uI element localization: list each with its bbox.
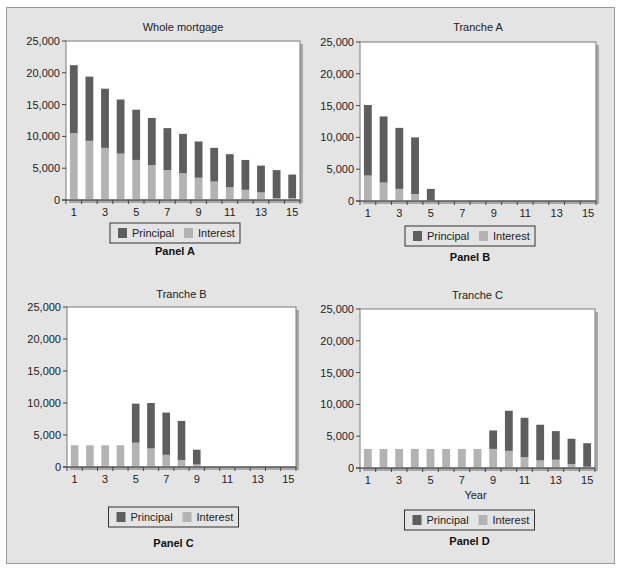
bar-principal (242, 160, 250, 190)
legend-principal-label: Principal (132, 227, 174, 239)
bar-principal (273, 170, 281, 198)
bar-interest (395, 189, 403, 201)
bar-interest (242, 190, 250, 200)
legend-interest-label: Interest (493, 230, 530, 242)
x-tick-label: 11 (224, 206, 235, 218)
x-tick-label: 7 (459, 207, 465, 219)
x-tick-label: 1 (72, 473, 78, 485)
chart-title: Tranche A (453, 21, 503, 33)
chart-panel-b: Tranche A05,00010,00015,00020,00025,0001… (320, 21, 599, 263)
chart-panel-d: Tranche C05,00010,00015,00020,00025,0001… (320, 289, 598, 547)
bar-interest (195, 178, 203, 200)
bar-interest (411, 194, 419, 201)
x-tick-label: 9 (491, 207, 497, 219)
x-tick-label: 15 (282, 473, 294, 485)
x-tick-label: 3 (102, 473, 108, 485)
x-tick-label: 15 (581, 474, 593, 486)
x-tick-label: 13 (550, 474, 562, 486)
panel-label: Panel C (153, 537, 193, 549)
y-tick-label: 15,000 (320, 367, 354, 379)
x-tick-label: 15 (582, 207, 594, 219)
bar-interest (568, 464, 576, 468)
y-tick-label: 20,000 (27, 333, 61, 345)
bar-interest (536, 460, 544, 468)
x-tick-label: 3 (102, 206, 108, 218)
y-tick-label: 20,000 (26, 67, 60, 79)
bar-interest (257, 192, 265, 200)
bar-interest (71, 445, 79, 467)
x-tick-label: 1 (365, 207, 371, 219)
x-tick-label: 3 (396, 207, 402, 219)
x-tick-label: 1 (365, 474, 371, 486)
bar-principal (195, 141, 203, 177)
legend-interest-swatch (479, 515, 488, 525)
chart-title: Tranche B (156, 288, 206, 300)
x-tick-label: 11 (222, 473, 233, 485)
y-tick-label: 20,000 (320, 68, 354, 80)
legend-interest-label: Interest (197, 511, 234, 523)
legend-principal-swatch (413, 515, 422, 525)
chart-panel-a: Whole mortgage05,00010,00015,00020,00025… (26, 21, 303, 257)
y-tick-label: 25,000 (320, 36, 354, 48)
bar-principal (164, 128, 172, 170)
y-tick-label: 0 (348, 462, 354, 474)
legend-interest-label: Interest (198, 227, 235, 239)
bar-principal (521, 418, 529, 457)
x-tick-label: 5 (133, 206, 139, 218)
bar-interest (489, 449, 497, 468)
x-tick-label: 7 (164, 206, 170, 218)
bar-principal (70, 65, 78, 133)
legend-principal-swatch (413, 231, 422, 241)
x-axis-label: Year (464, 489, 487, 501)
bar-principal (132, 404, 140, 443)
bar-interest (162, 455, 170, 467)
x-tick-label: 1 (71, 206, 77, 218)
y-tick-label: 25,000 (26, 35, 60, 47)
y-tick-label: 25,000 (27, 301, 61, 313)
x-tick-label: 13 (252, 473, 264, 485)
bar-interest (101, 445, 109, 467)
bar-principal (411, 137, 419, 194)
legend-interest-swatch (184, 228, 193, 238)
y-tick-label: 5,000 (326, 430, 354, 442)
y-tick-label: 5,000 (33, 429, 61, 441)
chart-title: Whole mortgage (143, 21, 224, 33)
bar-interest (226, 187, 234, 200)
panel-label: Panel B (450, 251, 490, 263)
bar-interest (210, 182, 218, 200)
bar-principal (147, 403, 155, 448)
chart-legend: PrincipalInterest (110, 223, 240, 243)
bar-interest (164, 170, 172, 200)
legend-principal-swatch (118, 228, 127, 238)
legend-principal-label: Principal (427, 514, 469, 526)
x-tick-label: 11 (519, 474, 530, 486)
bar-interest (458, 449, 466, 468)
bar-principal (505, 411, 513, 451)
bar-principal (132, 110, 140, 160)
bar-interest (505, 451, 513, 468)
chart-panel-c: Tranche B05,00010,00015,00020,00025,0001… (27, 288, 299, 549)
bar-principal (380, 116, 388, 182)
bar-principal (193, 450, 201, 465)
bar-principal (148, 118, 156, 165)
bar-interest (132, 160, 140, 200)
bar-principal (568, 439, 576, 464)
bar-interest (117, 445, 125, 467)
x-tick-label: 13 (255, 206, 267, 218)
bar-principal (536, 425, 544, 461)
bar-principal (86, 77, 94, 141)
bar-interest (552, 460, 560, 468)
x-tick-label: 11 (519, 207, 530, 219)
bar-interest (364, 176, 372, 201)
bar-principal (226, 154, 234, 187)
y-tick-label: 0 (54, 194, 60, 206)
bar-interest (147, 448, 155, 467)
bar-interest (427, 449, 435, 468)
x-tick-label: 7 (459, 474, 465, 486)
x-tick-label: 5 (428, 207, 434, 219)
x-tick-label: 9 (194, 473, 200, 485)
bar-interest (474, 449, 482, 468)
y-tick-label: 10,000 (320, 131, 354, 143)
bar-principal (257, 166, 265, 193)
y-tick-label: 5,000 (326, 163, 354, 175)
